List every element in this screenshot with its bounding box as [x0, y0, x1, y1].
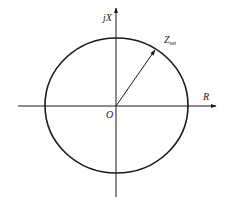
impedance-diagram [0, 0, 229, 209]
jx-axis-label: jX [103, 13, 112, 23]
origin-label: O [106, 110, 113, 120]
r-axis-label: R [203, 92, 209, 102]
zset-vector [116, 50, 155, 106]
zset-label: Zset [164, 35, 176, 46]
zset-sub: set [170, 40, 177, 46]
